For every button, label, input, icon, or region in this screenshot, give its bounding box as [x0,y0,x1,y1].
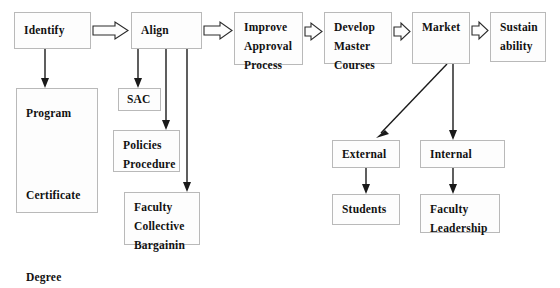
block-arrow-identify-to-align [93,22,128,39]
node-program-certificate-degree-label: Program Certificate Degree [26,93,97,288]
block-arrow-develop-to-market [394,23,410,40]
node-external[interactable]: External [332,140,400,168]
block-arrow-improve-to-develop [305,23,322,40]
block-arrow-align-to-improve [204,22,232,39]
node-faculty-collective-bargaining[interactable]: Faculty Collective Bargainin [124,192,200,245]
line-arrow-internal-to-faculty-leadership [449,168,457,194]
node-faculty-collective-bargaining-label: Faculty Collective Bargainin [134,198,199,255]
node-policies-procedure[interactable]: Policies Procedure [113,130,180,172]
block-arrow-market-to-sustain [472,22,488,39]
node-align[interactable]: Align [131,12,202,49]
line-arrow-market-to-internal [449,64,457,140]
node-identify-label: Identify [24,21,90,40]
node-improve-approval-process[interactable]: Improve Approval Process [234,12,303,65]
node-students[interactable]: Students [332,194,400,225]
node-align-label: Align [141,21,201,40]
node-market-label: Market [422,18,469,37]
node-improve-approval-process-label: Improve Approval Process [244,18,302,75]
node-identify[interactable]: Identify [14,12,91,49]
node-internal-label: Internal [430,145,504,164]
node-sustainability[interactable]: Sustain ability [490,12,546,62]
line-arrow-align-to-faculty-cb [183,49,191,192]
node-internal[interactable]: Internal [420,140,505,168]
line-arrow-external-to-students [362,168,370,194]
line-arrow-identify-to-program [41,49,49,88]
node-external-label: External [342,145,399,164]
node-sac[interactable]: SAC [118,88,161,111]
line-arrow-align-to-sac [134,49,142,88]
node-market[interactable]: Market [412,12,470,64]
node-develop-master-courses[interactable]: Develop Master Courses [324,12,392,64]
line-arrow-align-to-policies [162,49,170,130]
node-sac-label: SAC [127,90,160,109]
node-develop-master-courses-label: Develop Master Courses [334,18,391,75]
node-policies-procedure-label: Policies Procedure [123,136,179,174]
node-students-label: Students [342,200,399,219]
node-sustainability-label: Sustain ability [500,18,545,56]
node-faculty-leadership-label: Faculty Leadership [430,200,499,238]
line-arrow-market-to-external [376,64,447,138]
node-faculty-leadership[interactable]: Faculty Leadership [420,194,500,233]
node-program-certificate-degree[interactable]: Program Certificate Degree [16,88,98,213]
